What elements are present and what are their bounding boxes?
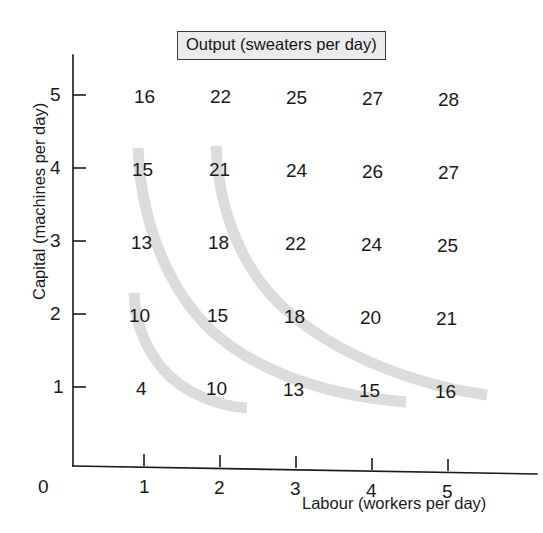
chart-canvas [0, 0, 543, 533]
cell-value: 13 [131, 233, 152, 252]
cell-value: 18 [208, 233, 229, 252]
cell-value: 16 [134, 87, 155, 106]
cell-value: 28 [438, 90, 459, 109]
cell-value: 25 [286, 88, 307, 107]
cell-value: 15 [207, 306, 228, 325]
isoquant-chart: Output (sweaters per day) Capital (machi… [0, 0, 543, 533]
x-tick-label-3: 3 [290, 479, 301, 498]
y-tick-label-5: 5 [50, 85, 61, 104]
cell-value: 20 [360, 308, 381, 327]
y-tick-label-1: 1 [53, 377, 64, 396]
cell-value: 27 [362, 89, 383, 108]
y-tick-label-4: 4 [50, 158, 61, 177]
cell-value: 10 [129, 306, 150, 325]
y-tick-marks [73, 95, 86, 387]
x-tick-label-4: 4 [366, 481, 377, 500]
y-axis-title: Capital (machines per day) [31, 103, 48, 300]
x-tick-label-5: 5 [442, 482, 453, 501]
cell-value: 16 [435, 382, 456, 401]
cell-value: 25 [437, 236, 458, 255]
x-tick-label-1: 1 [139, 477, 150, 496]
x-axis-title: Labour (workers per day) [302, 495, 486, 512]
cell-value: 26 [362, 162, 383, 181]
cell-value: 24 [361, 235, 382, 254]
x-axis-line [73, 466, 537, 474]
y-tick-label-3: 3 [50, 231, 61, 250]
y-tick-label-2: 2 [50, 304, 61, 323]
cell-value: 4 [136, 379, 147, 398]
cell-value: 24 [286, 161, 307, 180]
cell-value: 15 [359, 381, 380, 400]
isoquant-group [134, 146, 487, 408]
cell-value: 10 [206, 379, 227, 398]
chart-title-box: Output (sweaters per day) [177, 31, 386, 60]
cell-value: 22 [285, 234, 306, 253]
x-tick-label-2: 2 [214, 478, 225, 497]
cell-value: 21 [436, 309, 457, 328]
cell-value: 22 [210, 87, 231, 106]
cell-value: 18 [284, 307, 305, 326]
cell-value: 15 [132, 160, 153, 179]
cell-value: 21 [209, 160, 230, 179]
origin-label: 0 [38, 477, 49, 496]
cell-value: 27 [438, 163, 459, 182]
cell-value: 13 [283, 380, 304, 399]
